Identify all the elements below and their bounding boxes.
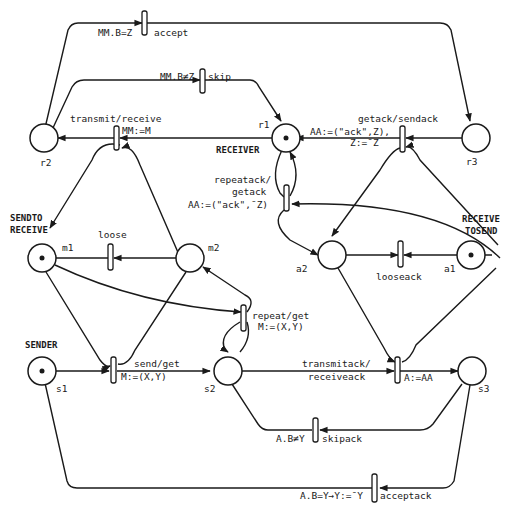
- name-skip: skip: [208, 71, 231, 82]
- arc-s3-skipack: [320, 384, 462, 430]
- arc-a1-transmitack: [402, 268, 496, 362]
- transition-transmit[interactable]: [114, 126, 119, 150]
- name-loose: loose: [98, 229, 127, 240]
- action-transmit: MM:=M: [122, 125, 151, 136]
- action-repeatack: AA:=("ack",¯Z): [188, 199, 268, 210]
- arc-send-m2: [118, 272, 186, 364]
- token-r1: [284, 136, 289, 141]
- label-s2: s2: [204, 383, 215, 394]
- transitions: [108, 11, 405, 502]
- arc-repeatack-r1: [290, 152, 296, 196]
- token-s1: [40, 369, 45, 374]
- guard-acceptack: A.B=Y→Y:=¯Y: [300, 490, 363, 501]
- label-s1: s1: [56, 383, 68, 394]
- caption-receive-a1: RECEIVE: [462, 214, 500, 224]
- arc-repeatack-a2: [278, 210, 318, 255]
- transition-repeatack[interactable]: [284, 185, 289, 211]
- arc-getack-a2: [332, 148, 400, 236]
- arc-accept-r3: [146, 23, 470, 121]
- petri-net-diagram: r2 r1 RECEIVER r3 SENDTO RECEIVE m1 m2 a…: [0, 0, 518, 517]
- arc-skipack-s2: [232, 384, 312, 430]
- name-transmitack-2: receiveack: [308, 371, 365, 382]
- transition-acceptack[interactable]: [372, 474, 377, 502]
- name-skipack: skipack: [322, 433, 362, 444]
- name-repeatack-2: getack: [232, 186, 267, 197]
- name-getack: getack/sendack: [358, 113, 438, 124]
- guard-accept: MM.B=Z: [98, 27, 133, 38]
- arc-m2-transmit: [122, 147, 180, 257]
- name-repeatack-1: repeatack/: [214, 174, 271, 185]
- name-transmit: transmit/receive: [70, 113, 162, 124]
- place-r3[interactable]: [462, 124, 490, 152]
- name-looseack: looseack: [376, 271, 422, 282]
- transition-transmitack[interactable]: [395, 357, 400, 383]
- place-s3[interactable]: [458, 357, 486, 385]
- place-labels: r2 r1 RECEIVER r3 SENDTO RECEIVE m1 m2 a…: [10, 119, 500, 394]
- arc-skip-r1: [204, 80, 281, 121]
- arc-r1-repeatack: [275, 150, 284, 197]
- transition-getack[interactable]: [400, 126, 405, 152]
- action-repeat: M:=(X,Y): [258, 321, 304, 332]
- place-s2[interactable]: [214, 357, 242, 385]
- token-m1: [40, 256, 45, 261]
- transition-skipack[interactable]: [313, 418, 318, 442]
- transition-send[interactable]: [111, 357, 116, 383]
- caption-sender: SENDER: [25, 340, 58, 350]
- action-getack-1: AA:=("ack",Z),: [310, 126, 390, 137]
- place-m2[interactable]: [176, 244, 204, 272]
- caption-receive-m1: RECEIVE: [10, 225, 48, 235]
- name-acceptack: acceptack: [380, 490, 432, 501]
- caption-sendto: SENDTO: [10, 213, 43, 223]
- label-m2: m2: [208, 242, 219, 253]
- label-r1: r1: [258, 119, 270, 130]
- label-a2: a2: [296, 263, 307, 274]
- transition-repeat[interactable]: [241, 305, 246, 331]
- arc-a2-transmitack: [338, 268, 395, 362]
- action-transmitack: A:=AA: [404, 372, 433, 383]
- transition-loose[interactable]: [108, 244, 113, 270]
- name-accept: accept: [154, 27, 188, 38]
- arc-repeat-s2: [223, 322, 240, 352]
- guard-skip: MM.B≠Z: [160, 71, 195, 82]
- caption-tosend: TOSEND: [465, 226, 498, 236]
- name-repeat: repeat/get: [252, 310, 309, 321]
- transition-accept[interactable]: [142, 11, 147, 35]
- arc-s3-acceptack: [380, 385, 470, 488]
- guard-skipack: A.B≠Y: [276, 433, 305, 444]
- token-a1: [469, 253, 474, 258]
- transition-skip[interactable]: [200, 69, 205, 93]
- arc-transmit-m1: [50, 144, 120, 228]
- name-transmitack-1: transmitack/: [302, 358, 371, 369]
- name-send: send/get: [134, 358, 180, 369]
- transition-looseack[interactable]: [398, 241, 403, 267]
- action-send: M:=(X,Y): [121, 371, 167, 382]
- arc-m1-repeat: [55, 265, 241, 312]
- label-a1: a1: [444, 263, 456, 274]
- action-getack-2: Z:=¯Z: [350, 137, 379, 148]
- label-r3: r3: [466, 156, 477, 167]
- caption-receiver: RECEIVER: [216, 145, 260, 155]
- label-r2: r2: [40, 157, 51, 168]
- place-r2[interactable]: [30, 124, 58, 152]
- place-a2[interactable]: [318, 241, 346, 269]
- arc-m1-send: [46, 272, 110, 366]
- label-m1: m1: [62, 242, 74, 253]
- label-s3: s3: [478, 383, 489, 394]
